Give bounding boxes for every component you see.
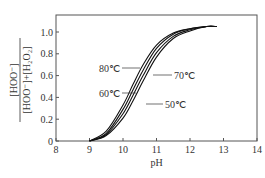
chart: 89101112131400.20.40.60.81.0pH[HOO⁻][HOO… xyxy=(0,0,265,178)
y-axis-label: [HOO⁻][HOO⁻]+[H₂O₂] xyxy=(8,38,32,122)
y-label-denominator: [HOO⁻]+[H₂O₂] xyxy=(21,46,32,113)
x-tick-label: 10 xyxy=(118,144,128,155)
x-tick-label: 9 xyxy=(87,144,92,155)
curve-70c xyxy=(90,26,217,141)
curve-60c xyxy=(90,26,217,141)
curve-80c xyxy=(90,26,217,141)
y-tick-label: 0.2 xyxy=(41,114,54,125)
y-label-numerator: [HOO⁻] xyxy=(8,63,19,96)
plot-frame xyxy=(56,15,257,141)
curve-label: 80℃ xyxy=(99,63,120,74)
x-tick-label: 12 xyxy=(185,144,195,155)
x-tick-label: 8 xyxy=(54,144,59,155)
y-tick-label: 0.4 xyxy=(41,92,54,103)
x-tick-label: 13 xyxy=(219,144,229,155)
curve-50c xyxy=(90,26,217,141)
y-tick-label: 1.0 xyxy=(41,27,54,38)
curve-label: 70℃ xyxy=(174,70,195,81)
curve-label: 50℃ xyxy=(165,99,186,110)
y-tick-label: 0 xyxy=(48,136,53,147)
y-tick-label: 0.6 xyxy=(41,70,54,81)
x-axis-label: pH xyxy=(150,157,162,168)
x-tick-label: 14 xyxy=(252,144,262,155)
y-tick-label: 0.8 xyxy=(41,48,54,59)
curve-label: 60℃ xyxy=(99,88,120,99)
x-tick-label: 11 xyxy=(152,144,162,155)
